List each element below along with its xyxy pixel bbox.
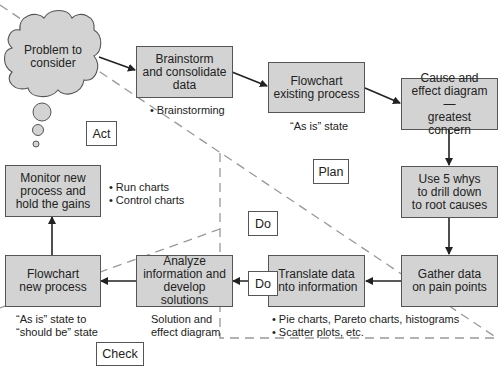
step-gather-data: Gather dataon pain points xyxy=(401,255,498,307)
note-brainstorm: Brainstorming xyxy=(150,104,225,117)
step-analyze: Analyzeinformation anddevelop solutions xyxy=(136,255,233,307)
arrow-flowchart-to-cause xyxy=(365,88,400,103)
flow-arrows xyxy=(52,57,449,281)
phase-label-act: Act xyxy=(86,121,117,146)
phase-label-plan: Plan xyxy=(313,159,349,184)
cloud-problem-label: Problem to consider xyxy=(18,44,88,70)
note-item: Scatter plots, etc. xyxy=(272,326,459,339)
phase-label-check: Check xyxy=(96,342,144,366)
note-monitor: Run charts Control charts xyxy=(109,181,184,207)
note-item: Brainstorming xyxy=(150,104,225,117)
note-flowchart-existing: “As is” state xyxy=(290,120,348,133)
phase-label-do: Do xyxy=(248,211,278,236)
step-flowchart-existing: Flowchartexisting process xyxy=(268,62,365,113)
step-flowchart-new: Flowchartnew process xyxy=(5,255,101,307)
arrow-cloud-to-brainstorm xyxy=(99,57,135,70)
note-flowchart-new: “As is” state to “should be” state xyxy=(16,313,98,339)
thought-bubbles-icon xyxy=(33,103,52,147)
note-item: Control charts xyxy=(109,194,184,207)
arrow-brainstorm-to-flowchart xyxy=(232,72,267,86)
note-item: Pie charts, Pareto charts, histograms xyxy=(272,313,459,326)
step-cause-effect: Cause andeffect diagram—greatest concern xyxy=(401,78,498,130)
cloud-line-2: consider xyxy=(18,57,88,70)
step-translate-data: Translate datainto information xyxy=(268,255,365,307)
phase-label-do: Do xyxy=(248,271,278,296)
note-analyze: Solution and effect diagram xyxy=(151,313,221,339)
step-five-whys: Use 5 whysto drill downto root causes xyxy=(401,166,498,218)
step-monitor: Monitor newprocess andhold the gains xyxy=(5,165,101,217)
note-translate: Pie charts, Pareto charts, histograms Sc… xyxy=(272,313,459,339)
step-brainstorm: Brainstormand consolidatedata xyxy=(136,46,233,98)
note-item: Run charts xyxy=(109,181,184,194)
